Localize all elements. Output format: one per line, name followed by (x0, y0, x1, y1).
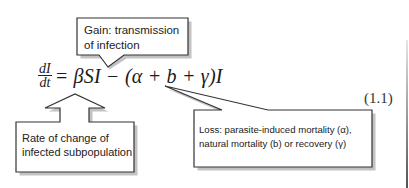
callout-shapes (0, 0, 409, 188)
differential-equation: dI dt = βSI − (α + b + γ)I (38, 62, 223, 90)
loss-callout-text: Loss: parasite-induced mortality (α), na… (199, 123, 374, 151)
loss-callout-line-2: natural mortality (b) or recovery (γ) (199, 137, 374, 151)
loss-callout-line-1: Loss: parasite-induced mortality (α), (199, 123, 374, 137)
equation-number: (1.1) (364, 90, 393, 107)
fraction-denominator: dt (39, 76, 50, 90)
fraction-numerator: dI (38, 62, 52, 76)
derivative-fraction: dI dt (38, 62, 52, 90)
rate-callout-text: Rate of change of infected subpopulation (22, 131, 134, 160)
equation-rhs: = βSI − (α + b + γ)I (55, 65, 223, 88)
gain-callout-text: Gain: transmission of infection (84, 23, 188, 53)
